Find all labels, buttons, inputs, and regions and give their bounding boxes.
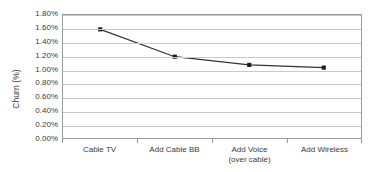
y-tick-label: 0.20% xyxy=(35,121,58,129)
x-axis-category-labels: Cable TVAdd Cable BBAdd Voice(over cable… xyxy=(62,145,362,171)
x-tick-mark xyxy=(137,139,138,143)
churn-line-chart: Churn (%) 1.80%1.60%1.40%1.20%1.00%0.80%… xyxy=(0,0,372,172)
x-category-label-line: Cable TV xyxy=(83,145,116,154)
gridline xyxy=(63,126,361,127)
x-category-label: Cable TV xyxy=(83,145,116,155)
y-tick-label: 1.20% xyxy=(35,52,58,60)
y-tick-label: 0.00% xyxy=(35,135,58,143)
series-polyline xyxy=(100,29,324,67)
data-point-marker: Add Wireless: 1.03% xyxy=(322,66,326,70)
gridline xyxy=(63,57,361,58)
gridline xyxy=(63,15,361,16)
y-tick-label: 1.40% xyxy=(35,38,58,46)
y-tick-label: 1.60% xyxy=(35,24,58,32)
x-category-label: Add Cable BB xyxy=(149,145,199,155)
gridline xyxy=(63,43,361,44)
x-tick-mark xyxy=(361,139,362,143)
x-axis-ticks xyxy=(62,139,362,144)
y-tick-label: 0.60% xyxy=(35,93,58,101)
y-axis-title: Churn (%) xyxy=(10,26,22,152)
x-tick-mark xyxy=(212,139,213,143)
gridline xyxy=(63,112,361,113)
series-line-churn: Cable TV: 1.59%Add Cable BB: 1.19%Add Vo… xyxy=(63,15,361,138)
y-tick-label: 1.00% xyxy=(35,66,58,74)
x-category-label: Add Wireless xyxy=(301,145,348,155)
x-category-label-line: Add Wireless xyxy=(301,145,348,154)
plot-area: Cable TV: 1.59%Add Cable BB: 1.19%Add Vo… xyxy=(62,14,362,139)
data-point-marker: Add Voice (over cable): 1.07% xyxy=(247,63,251,67)
x-category-label-line: Add Cable BB xyxy=(149,145,199,154)
x-category-label-line: (over cable) xyxy=(228,155,270,165)
gridline xyxy=(63,84,361,85)
y-tick-label: 1.80% xyxy=(35,10,58,18)
y-axis-tick-labels: 1.80%1.60%1.40%1.20%1.00%0.80%0.60%0.40%… xyxy=(24,14,62,139)
gridline xyxy=(63,98,361,99)
x-tick-mark xyxy=(62,139,63,143)
x-category-label-line: Add Voice xyxy=(231,145,267,154)
x-tick-mark xyxy=(287,139,288,143)
x-category-label: Add Voice(over cable) xyxy=(228,145,270,165)
gridline xyxy=(63,29,361,30)
y-tick-label: 0.80% xyxy=(35,79,58,87)
y-tick-label: 0.40% xyxy=(35,107,58,115)
gridline xyxy=(63,71,361,72)
